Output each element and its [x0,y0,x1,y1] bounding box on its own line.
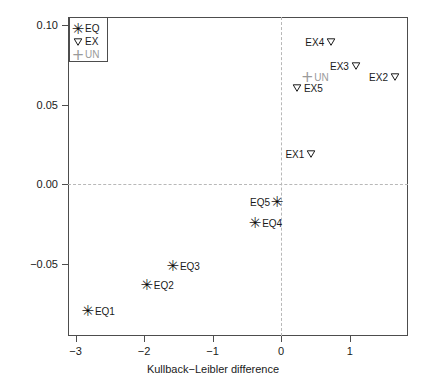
data-point-label: EQ4 [262,217,282,228]
y-axis-tick-label: 0.05 [37,99,58,111]
y-axis-tick-label: −0.05 [30,258,58,270]
data-point-label: EQ1 [95,306,115,317]
x-axis-tick [76,336,77,342]
data-point-label: UN [314,71,328,82]
vertical-reference-line [281,17,282,336]
x-axis-tick-label: 0 [278,345,284,357]
legend-marker: ✳ [70,22,85,36]
legend-label: EQ [85,24,99,34]
x-axis-tick [213,336,214,342]
triangle-down-icon [307,150,316,158]
scatter-plot-figure: −3−2−1010.100.050.00−0.05 ✳EQ1✳EQ2✳EQ3✳E… [0,0,426,389]
x-axis-tick [350,336,351,342]
data-point-label: EX4 [305,36,324,47]
legend-marker: + [70,48,85,62]
x-axis-tick-label: 1 [347,345,353,357]
data-point-label: EX3 [330,60,349,71]
x-axis-tick [144,336,145,342]
y-axis-tick-label: 0.10 [37,19,58,31]
plus-icon: + [301,69,314,84]
star-icon: ✳ [141,277,154,292]
data-point-label: EQ3 [180,260,200,271]
triangle-down-icon [327,38,336,46]
legend-label: UN [85,50,99,60]
data-point-label: EX1 [285,149,304,160]
star-icon: ✳ [249,215,262,230]
triangle-down-icon [390,73,399,81]
star-icon: ✳ [167,258,180,273]
plot-area: ✳EQ1✳EQ2✳EQ3✳EQ4✳EQ5EX1EX2EX3EX4EX5+UN [68,17,408,336]
x-axis-tick [281,336,282,342]
star-icon: ✳ [82,304,95,319]
legend-item-eq: ✳EQ [70,22,107,36]
star-icon: ✳ [271,195,284,210]
y-axis-tick-label: 0.00 [37,178,58,190]
data-point-label: EQ2 [154,279,174,290]
data-point-label: EX2 [369,71,388,82]
horizontal-reference-line [68,184,408,185]
x-axis-tick-label: −3 [69,345,82,357]
plus-icon: + [72,48,85,63]
x-axis-title: Kullback−Leibler difference [0,363,426,375]
x-axis-tick-label: −1 [206,345,219,357]
legend-label: EX [85,37,98,47]
legend: ✳EQEX+UN [69,17,108,62]
x-axis-tick-label: −2 [138,345,151,357]
data-point-label: EQ5 [250,197,270,208]
legend-item-un: +UN [70,48,107,62]
triangle-down-icon [351,62,360,70]
